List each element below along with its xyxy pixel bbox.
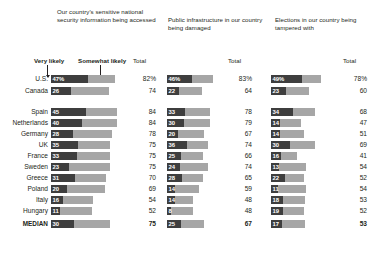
row-total-value: 65 <box>226 172 252 183</box>
table-row: Spain458433783468 <box>0 106 379 117</box>
table-row: Germany287820671451 <box>0 128 379 139</box>
row-country-label: Hungary <box>0 205 48 216</box>
panel-title-2: Public infrastructure in our country bei… <box>168 16 268 32</box>
table-row: Netherlands408430791447 <box>0 117 379 128</box>
row-country-label: France <box>0 150 48 161</box>
row-country-label: Italy <box>0 194 48 205</box>
bar-value-label: 34 <box>273 108 280 116</box>
table-row: Italy165414481853 <box>0 194 379 205</box>
bar-value-label: 26 <box>53 87 60 95</box>
bar-panel-2: 22 <box>167 87 202 95</box>
row-total-value: 60 <box>341 85 367 96</box>
bar-panel-3: 23 <box>271 87 309 95</box>
bar-value-label: 36 <box>169 141 176 149</box>
bar-panel-2: 46% <box>167 75 213 83</box>
row-total-value: 67 <box>226 128 252 139</box>
bar-value-label: 47% <box>53 75 65 83</box>
row-total-value: 75 <box>130 161 156 172</box>
row-total-value: 59 <box>226 183 252 194</box>
row-country-label: Netherlands <box>0 117 48 128</box>
bar-panel-3: 11 <box>271 185 306 193</box>
bar-panel-1: 16 <box>51 196 93 204</box>
bar-value-label: 30 <box>273 141 280 149</box>
row-total-value: 79 <box>226 117 252 128</box>
chart-container: Our country's sensitive national securit… <box>0 0 379 267</box>
bar-panel-1: 23 <box>51 163 110 171</box>
row-country-label: Germany <box>0 128 48 139</box>
bar-panel-2: 8 <box>167 207 193 215</box>
bar-panel-2: 20 <box>167 130 204 138</box>
bar-value-label: 49% <box>273 75 285 83</box>
bar-panel-3: 16 <box>271 152 297 160</box>
row-total-value: 74 <box>226 161 252 172</box>
row-total-value: 52 <box>341 205 367 216</box>
panel-title-1: Our country's sensitive national securit… <box>57 8 163 24</box>
row-total-value: 48 <box>226 205 252 216</box>
row-country-label: Sweden <box>0 161 48 172</box>
legend-somewhat-likely: Somewhat likely <box>78 57 126 64</box>
table-row: UK357536743069 <box>0 139 379 150</box>
row-total-value: 83% <box>226 73 252 84</box>
bar-panel-2: 28 <box>167 174 203 182</box>
bar-panel-3: 14 <box>271 119 301 127</box>
row-country-label: Poland <box>0 183 48 194</box>
bar-panel-2: 14 <box>167 196 193 204</box>
row-total-value: 75 <box>130 218 156 229</box>
row-total-value: 54 <box>130 194 156 205</box>
bar-panel-3: 19 <box>271 207 304 215</box>
row-total-value: 64 <box>226 85 252 96</box>
bar-panel-3: 22 <box>271 174 304 182</box>
row-total-value: 78 <box>130 128 156 139</box>
bar-value-label: 22 <box>273 174 280 182</box>
bar-panel-1: 33 <box>51 152 110 160</box>
row-total-value: 69 <box>130 183 156 194</box>
row-total-value: 53 <box>341 218 367 229</box>
bar-panel-3: 17 <box>271 220 305 228</box>
row-total-value: 70 <box>130 172 156 183</box>
bar-value-label: 14 <box>169 196 176 204</box>
row-total-value: 54 <box>341 183 367 194</box>
bar-panel-2: 33 <box>167 108 210 116</box>
bar-panel-1: 26 <box>51 87 109 95</box>
row-country-label: MEDIAN <box>0 218 48 229</box>
row-country-label: UK <box>0 139 48 150</box>
bar-panel-1: 47% <box>51 75 115 83</box>
bar-value-label: 31 <box>53 174 60 182</box>
bar-panel-1: 28 <box>51 130 112 138</box>
bar-value-label: 11 <box>53 207 59 215</box>
bar-value-label: 28 <box>169 174 176 182</box>
bar-value-label: 14 <box>273 130 280 138</box>
bar-value-label: 20 <box>53 185 60 193</box>
bar-panel-1: 31 <box>51 174 106 182</box>
bar-value-label: 13 <box>273 163 280 171</box>
row-total-value: 78 <box>226 106 252 117</box>
table-row: Hungary11528481952 <box>0 205 379 216</box>
legend-very-likely: Very likely <box>34 57 64 64</box>
bar-value-label: 28 <box>53 130 60 138</box>
bar-panel-1: 45 <box>51 108 117 116</box>
bar-panel-1: 11 <box>51 207 92 215</box>
bar-value-label: 46% <box>169 75 181 83</box>
bar-panel-3: 14 <box>271 130 304 138</box>
bar-value-label: 23 <box>273 87 280 95</box>
row-total-value: 74 <box>130 85 156 96</box>
bar-value-label: 40 <box>53 119 60 127</box>
bar-value-label: 19 <box>273 207 280 215</box>
bar-value-label: 30 <box>169 119 176 127</box>
total-header-3: Total <box>343 57 356 64</box>
bar-value-label: 24 <box>169 163 176 171</box>
panel-title-3: Elections in our country being tampered … <box>275 16 373 32</box>
bar-panel-1: 35 <box>51 141 110 149</box>
bar-panel-3: 34 <box>271 108 315 116</box>
row-total-value: 78% <box>341 73 367 84</box>
bar-panel-3: 13 <box>271 163 306 171</box>
bar-value-label: 16 <box>273 152 280 160</box>
table-row: France337525661641 <box>0 150 379 161</box>
bar-panel-2: 25 <box>167 152 203 160</box>
row-total-value: 82% <box>130 73 156 84</box>
row-total-value: 51 <box>341 128 367 139</box>
row-country-label: Spain <box>0 106 48 117</box>
bar-value-label: 11 <box>273 185 279 193</box>
total-header-1: Total <box>133 57 146 64</box>
bar-value-label: 22 <box>169 87 176 95</box>
